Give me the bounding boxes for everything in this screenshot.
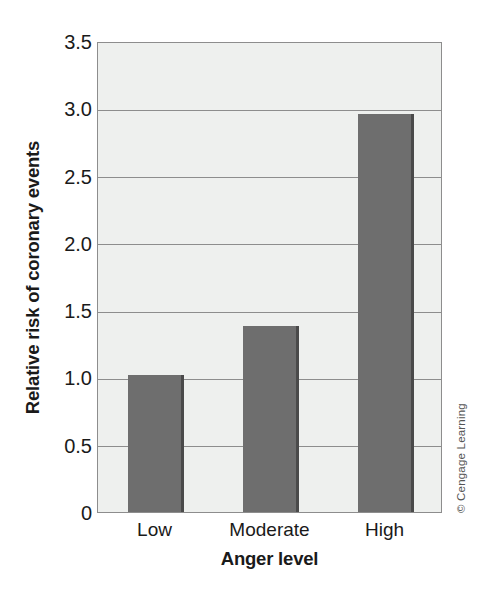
copyright-credit: © Cengage Learning bbox=[455, 363, 471, 513]
y-tick-label: 3.5 bbox=[64, 32, 92, 52]
x-axis-title: Anger level bbox=[97, 548, 442, 570]
y-tick-label: 1.5 bbox=[64, 301, 92, 321]
y-tick-label: 2.0 bbox=[64, 234, 92, 254]
y-tick-label: 2.5 bbox=[64, 167, 92, 187]
y-tick-label: 0.5 bbox=[64, 436, 92, 456]
x-tick-label: Low bbox=[137, 519, 172, 542]
bar-chart-figure: Relative risk of coronary events 00.51.0… bbox=[0, 0, 497, 609]
bars-layer bbox=[98, 43, 441, 512]
plot-area bbox=[97, 42, 442, 513]
y-tick-label: 0 bbox=[81, 503, 92, 523]
x-tick-label: Moderate bbox=[229, 519, 309, 542]
y-tick-label: 1.0 bbox=[64, 368, 92, 388]
x-tick-label: High bbox=[365, 519, 404, 542]
x-axis-tick-labels: LowModerateHigh bbox=[97, 519, 442, 549]
y-axis-title: Relative risk of coronary events bbox=[20, 42, 46, 513]
bar-low bbox=[128, 375, 184, 512]
bar-high bbox=[358, 114, 414, 512]
y-tick-label: 3.0 bbox=[64, 99, 92, 119]
y-axis-tick-labels: 00.51.01.52.02.53.03.5 bbox=[48, 42, 92, 513]
bar-moderate bbox=[243, 326, 299, 512]
